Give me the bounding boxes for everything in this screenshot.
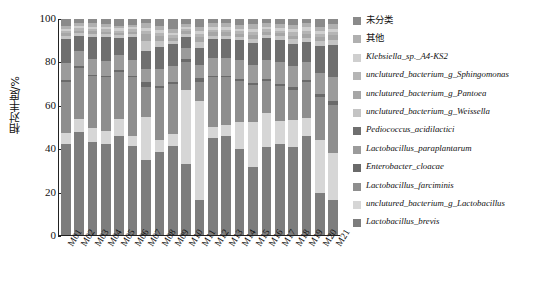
bar-segment xyxy=(114,38,124,55)
bar-segment xyxy=(208,138,218,235)
legend-item[interactable]: 其他 xyxy=(353,32,548,50)
bar-group xyxy=(72,19,85,235)
legend-item[interactable]: Pediococcus_acidilactici xyxy=(353,124,548,142)
bar-segment xyxy=(74,132,84,235)
legend-item[interactable]: Klebsiella_sp._A4-KS2 xyxy=(353,51,548,69)
y-tick-label: 80 xyxy=(22,55,56,67)
legend-item[interactable]: unclutured_bacterium_g_Weissella xyxy=(353,106,548,124)
legend-item[interactable]: unclutured_bacterium_g_Sphingomonas xyxy=(353,69,548,87)
bar-segment xyxy=(168,134,178,147)
y-tick-label: 40 xyxy=(22,142,56,154)
bar-segment xyxy=(315,46,325,74)
bar-segment xyxy=(302,118,312,135)
legend-item[interactable]: Enterobacter_cloacae xyxy=(353,161,548,179)
legend-item[interactable]: Lactobacillus_paraplantarum xyxy=(353,143,548,161)
bar-segment xyxy=(195,101,205,200)
bar-segment xyxy=(208,39,218,58)
legend-swatch xyxy=(353,127,361,135)
bar-segment xyxy=(221,77,231,125)
legend-item[interactable]: Lactobacillus_farciminis xyxy=(353,180,548,198)
x-tick: M10 xyxy=(179,236,192,285)
legend-label: Enterobacter_cloacae xyxy=(366,161,444,172)
bar-segment xyxy=(128,37,138,60)
y-tick-label: 0 xyxy=(22,229,56,241)
bar-segment xyxy=(114,55,124,70)
bar-segment xyxy=(181,62,191,90)
bar-segment xyxy=(168,66,178,82)
bar-group xyxy=(286,19,299,235)
bar-segment xyxy=(195,65,205,78)
stacked-bar[interactable] xyxy=(114,19,124,235)
stacked-bar[interactable] xyxy=(195,19,205,235)
bar-segment xyxy=(302,82,312,119)
x-tick: M13 xyxy=(219,236,232,285)
bar-segment xyxy=(168,84,178,134)
bar-segment xyxy=(141,117,151,160)
stacked-bar[interactable] xyxy=(101,19,111,235)
x-tick: M18 xyxy=(286,236,299,285)
bar-segment xyxy=(101,77,111,131)
stacked-bar[interactable] xyxy=(235,19,245,235)
bar-group xyxy=(99,19,112,235)
x-tick: M05 xyxy=(112,236,125,285)
x-tick: M08 xyxy=(152,236,165,285)
bar-segment xyxy=(141,87,151,117)
x-tick: M07 xyxy=(139,236,152,285)
bar-group xyxy=(166,19,179,235)
legend-label: Lactobacillus_paraplantarum xyxy=(366,143,472,154)
stacked-bar[interactable] xyxy=(74,19,84,235)
bar-segment xyxy=(328,153,338,201)
bar-segment xyxy=(208,58,218,75)
bar-segment xyxy=(315,140,325,193)
x-tick: M16 xyxy=(259,236,272,285)
legend-item[interactable]: unclutured_bacterium_g_Pantoea xyxy=(353,88,548,106)
bar-segment xyxy=(275,62,285,84)
bar-group xyxy=(300,19,313,235)
stacked-bar[interactable] xyxy=(302,19,312,235)
bar-segment xyxy=(114,119,124,135)
stacked-bar[interactable] xyxy=(328,19,338,235)
bar-segment xyxy=(208,127,218,138)
bar-group xyxy=(313,19,326,235)
bar-group xyxy=(153,19,166,235)
bar-segment xyxy=(61,39,71,63)
stacked-bar[interactable] xyxy=(168,19,178,235)
bar-segment xyxy=(155,47,165,69)
bar-segment xyxy=(275,40,285,63)
bar-segment xyxy=(248,85,258,121)
bar-segment xyxy=(235,122,245,150)
stacked-bar[interactable] xyxy=(262,19,272,235)
bar-segment xyxy=(302,42,312,61)
stacked-bar[interactable] xyxy=(275,19,285,235)
stacked-bar[interactable] xyxy=(88,19,98,235)
stacked-bar[interactable] xyxy=(248,19,258,235)
bar-segment xyxy=(262,60,272,79)
stacked-bar[interactable] xyxy=(155,19,165,235)
bar-group xyxy=(233,19,246,235)
bar-segment xyxy=(128,60,138,76)
legend-label: Pediococcus_acidilactici xyxy=(366,124,454,135)
bar-segment xyxy=(315,97,325,139)
stacked-bar[interactable] xyxy=(208,19,218,235)
stacked-bar[interactable] xyxy=(221,19,231,235)
bar-segment xyxy=(61,82,71,134)
y-tick-label: 20 xyxy=(22,186,56,198)
legend-item[interactable]: unclutured_bacterium_g_Lactobacillus xyxy=(353,198,548,216)
stacked-bar[interactable] xyxy=(288,19,298,235)
legend-item[interactable]: 未分类 xyxy=(353,14,548,32)
bar-segment xyxy=(235,60,245,79)
bar-segment xyxy=(208,77,218,127)
stacked-bar[interactable] xyxy=(181,19,191,235)
legend-item[interactable]: Lactobacillus_brevis xyxy=(353,216,548,234)
stacked-bar[interactable] xyxy=(315,19,325,235)
legend-swatch xyxy=(353,146,361,154)
legend-swatch xyxy=(353,72,361,80)
x-tick: M09 xyxy=(165,236,178,285)
bar-segment xyxy=(248,167,258,235)
x-tick: M11 xyxy=(192,236,205,285)
stacked-bar[interactable] xyxy=(61,19,71,235)
stacked-bar[interactable] xyxy=(128,19,138,235)
stacked-bar[interactable] xyxy=(141,19,151,235)
y-tick-label: 100 xyxy=(22,12,56,24)
bar-segment xyxy=(155,152,165,235)
